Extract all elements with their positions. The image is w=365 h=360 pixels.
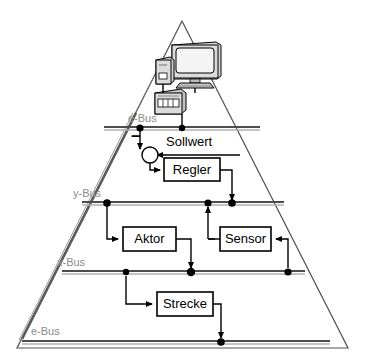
sensor-label: Sensor	[220, 231, 271, 246]
bus-label-e-bottom: e-Bus	[31, 325, 60, 337]
bus-y-line	[82, 202, 284, 205]
regler-label: Regler	[164, 162, 220, 177]
bus-label-x: x-Bus	[57, 256, 85, 268]
bus-e-bottom-line	[22, 341, 330, 344]
aktor-label: Aktor	[123, 231, 176, 246]
strecke-label: Strecke	[157, 296, 213, 311]
diagram-canvas: e-Bus y-Bus x-Bus e-Bus Regler Aktor Sen…	[0, 0, 365, 360]
network-switch-icon	[155, 89, 186, 114]
desktop-tower-icon	[156, 57, 174, 84]
bus-x-line	[62, 271, 305, 274]
crt-monitor-icon	[172, 42, 221, 88]
bus-label-e-top: e-Bus	[128, 112, 157, 124]
sollwert-label: Sollwert	[166, 134, 212, 149]
minus-sign-label: −	[131, 132, 141, 142]
bus-label-y: y-Bus	[73, 187, 101, 199]
summing-junction-circle	[142, 147, 158, 163]
